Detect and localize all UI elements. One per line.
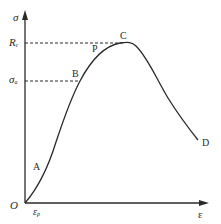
x-axis-label: ε (198, 209, 203, 220)
x-tick-epsilon-p: εp (33, 207, 40, 217)
diagram-canvas (0, 0, 221, 224)
x-tick-epsilon-p-sub: p (37, 211, 40, 217)
y-axis-arrow-icon (22, 10, 28, 20)
y-tick-rc-main: R (9, 36, 16, 48)
stress-strain-diagram: σ ε O Rc σa εp A B P C D (0, 0, 221, 224)
point-p-label: P (92, 44, 98, 54)
y-tick-sigma-a: σa (9, 74, 17, 85)
point-b-label: B (72, 69, 79, 79)
y-tick-sigma-a-sub: a (14, 79, 17, 85)
point-a-label: A (33, 162, 40, 172)
y-axis-label: σ (13, 12, 18, 23)
origin-label: O (10, 200, 18, 211)
y-tick-rc-sub: c (16, 42, 19, 48)
x-axis-arrow-icon (199, 200, 209, 206)
point-c-label: C (120, 31, 127, 41)
point-d-label: D (202, 138, 209, 148)
stress-strain-curve (25, 42, 198, 203)
y-tick-rc: Rc (9, 37, 18, 48)
